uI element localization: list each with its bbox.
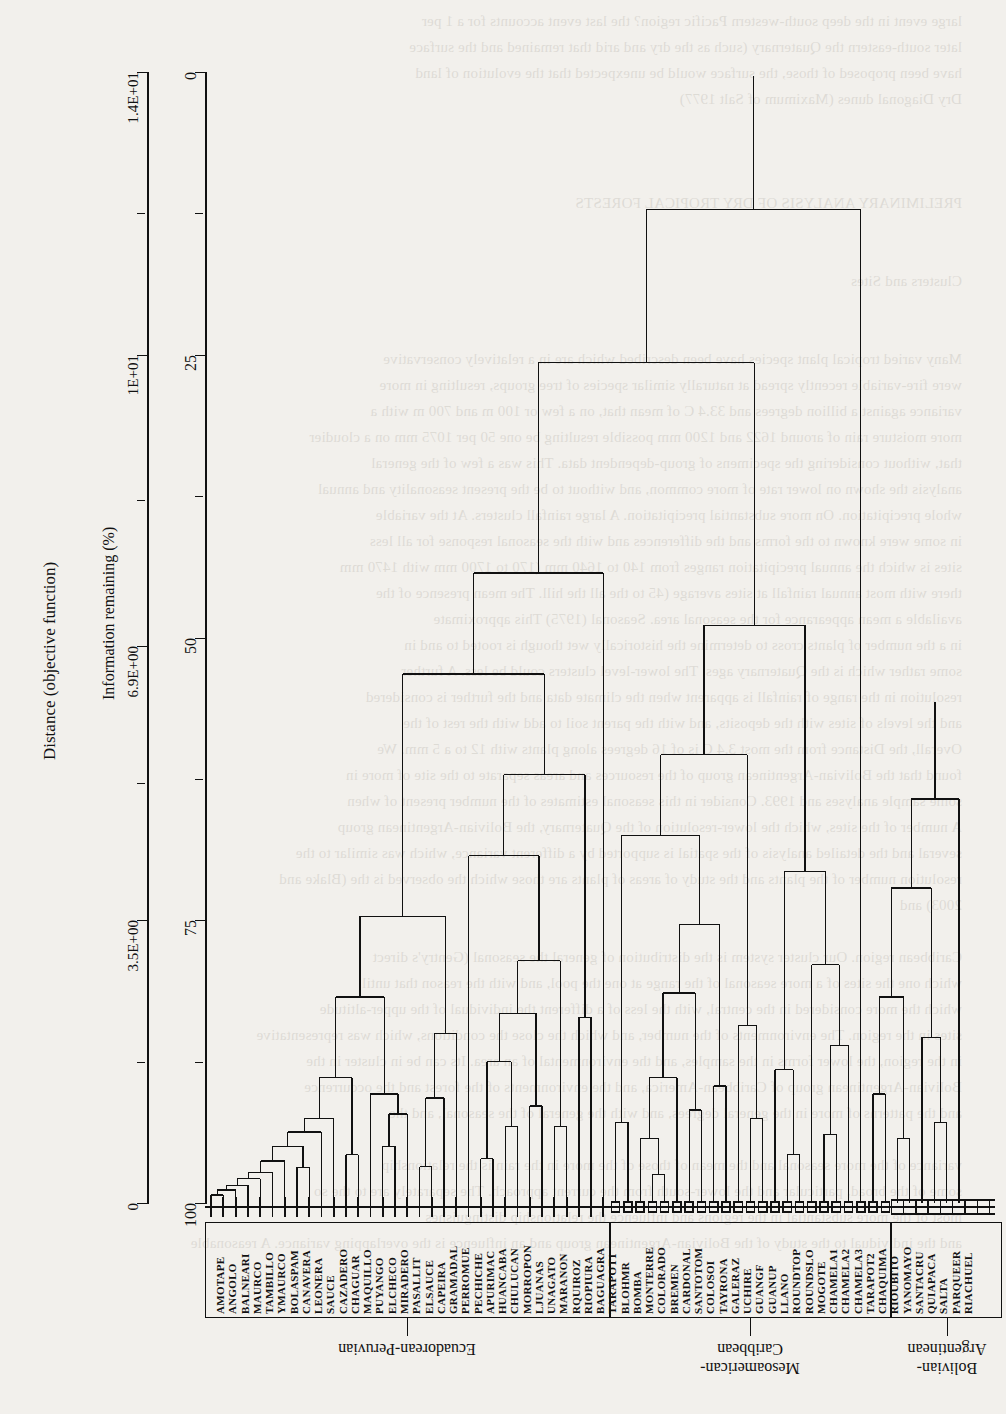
leaf-label: CHULUCAN [509, 1248, 520, 1314]
leaf-label: COLOSOI [705, 1261, 716, 1314]
leaf-label: LLANO [779, 1273, 790, 1314]
leaf-label: LJUANAS [534, 1261, 545, 1314]
leaf-label: HUANCABA [497, 1248, 508, 1314]
leaf-label: MARANON [558, 1253, 569, 1314]
leaf-label: GALERAZ [730, 1258, 741, 1315]
leaf-label: MONTERRE [644, 1247, 655, 1314]
axis-tick-label: 1.4E+01 [125, 72, 142, 123]
leaf-label: CARDONAL [681, 1248, 692, 1314]
axis-tick-label: 1E+01 [125, 355, 142, 395]
leaf-label: ROUNDSLO [804, 1249, 815, 1314]
axis-tick-label: 50 [182, 638, 200, 654]
axis-tick [195, 496, 203, 497]
leaf-label: ROUNDTOP [791, 1249, 802, 1314]
leaf-label: MAQUILLO [362, 1249, 373, 1314]
leaf-label: BOMBA [632, 1271, 643, 1314]
group-bracket-stem [947, 1318, 948, 1336]
leaf-label: BREMEN [669, 1264, 680, 1314]
leaf-label: RQUIROZ [571, 1259, 582, 1314]
leaf-label: MAURCO [252, 1261, 263, 1314]
leaf-label: RIACHUEL [963, 1252, 974, 1314]
leaf-label: MIRADERO [399, 1249, 410, 1314]
leaf-label: GUANUP [767, 1265, 778, 1314]
dendrogram-tree [205, 72, 965, 1203]
leaf-label: UNAGATO [546, 1257, 557, 1314]
leaf-label: CHAQUIMA [877, 1248, 888, 1314]
group-bracket-stem [750, 1318, 751, 1336]
leaf-label: PECHICHE [473, 1253, 484, 1314]
information-axis-title: Information remaining (%) [100, 527, 118, 700]
group-bracket-stem [407, 1318, 408, 1336]
leaf-label: BAGUAGRA [595, 1247, 606, 1314]
leaf-label: SANTACRU [914, 1251, 925, 1314]
leaf-label: ANGOLO [227, 1263, 238, 1314]
dendrogram-svg [205, 72, 965, 1203]
leaf-label: LEONERA [313, 1258, 324, 1315]
leaf-label: TAMBILLO [264, 1252, 275, 1314]
leaf-label: GUANGF [754, 1265, 765, 1314]
leaf-label: PUYANGO [374, 1257, 385, 1314]
axis-tick [195, 213, 203, 214]
leaf-label: CHAMELA2 [840, 1249, 851, 1314]
leaf-label: COLORADO [656, 1247, 667, 1314]
leaf-label: SALTA [938, 1278, 949, 1314]
group-name: Bolivian-Argentinean [837, 1340, 1006, 1378]
leaf-label: CAZADERO [338, 1249, 349, 1314]
leaf-label: QUIAPACA [926, 1253, 937, 1314]
group-name: Mesoamerican-Caribbean [640, 1340, 860, 1378]
leaf-label: APURIMAC [485, 1250, 496, 1314]
distance-axis: 1.4E+011E+016.9E+003.5E+000 [147, 72, 149, 1203]
leaf-label: PERROMUE [460, 1247, 471, 1314]
distance-axis-title: Distance (objective function) [40, 562, 60, 760]
leaf-label: MOGOTE [816, 1261, 827, 1314]
axis-tick-label: 6.9E+00 [125, 646, 142, 697]
axis-tick-label: 100 [182, 1203, 200, 1227]
leaf-label: YMAURCO [276, 1253, 287, 1314]
leaf-label: BALNEARI [240, 1254, 251, 1314]
leaf-label: ELCHECO [387, 1257, 398, 1314]
axis-tick [195, 779, 203, 780]
leaf-label: CHAMELA3 [853, 1249, 864, 1314]
axis-tick [137, 783, 145, 784]
axis-tick-label: 25 [182, 355, 200, 371]
axis-tick [137, 213, 145, 214]
leaf-label: PASALLIT [411, 1257, 422, 1314]
leaf-label: CANAVERA [301, 1250, 312, 1314]
axis-tick-label: 0 [182, 72, 200, 80]
leaf-label: CAPEIRA [436, 1262, 447, 1314]
leaf-label: CHAMELA1 [828, 1249, 839, 1314]
leaf-label: BLOHMR [620, 1262, 631, 1314]
leaf-label: TARAPOT2 [865, 1253, 876, 1314]
axis-tick-label: 75 [182, 920, 200, 936]
leaf-label: SANTOTOM [693, 1248, 704, 1314]
axis-tick [195, 1062, 203, 1063]
axis-tick-label: 3.5E+00 [125, 920, 142, 971]
axis-tick [137, 500, 145, 501]
leaf-label: ELSAUCE [424, 1260, 435, 1314]
group-name: Ecuadorean-Peruvian [297, 1340, 517, 1359]
leaf-label: BOLASPAM [289, 1250, 300, 1314]
leaf-label: SAUCE [325, 1275, 336, 1314]
leaf-marker-svg [205, 1196, 995, 1218]
leaf-label: RIOPIURA [583, 1256, 594, 1314]
leaf-label: UCHIRE [742, 1268, 753, 1314]
leaf-label: GRAMADAL [448, 1246, 459, 1314]
leaf-label: CHAGUAR [350, 1255, 361, 1314]
leaf-label: MORROPON [522, 1245, 533, 1314]
axis-tick [137, 1062, 145, 1063]
leaf-label: YANOMAYO [902, 1246, 913, 1314]
axis-tick-label: 0 [125, 1203, 142, 1211]
leaf-label: TAYRONA [718, 1258, 729, 1314]
leaf-label: AMOTAPE [215, 1256, 226, 1314]
leaf-label: PARQUEER [951, 1251, 962, 1314]
leaf-marker-comb [205, 1196, 995, 1218]
